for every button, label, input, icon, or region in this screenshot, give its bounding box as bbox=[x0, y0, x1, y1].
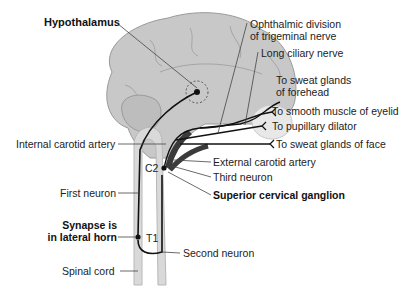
label-ophthalmic-1: Ophthalmic division bbox=[250, 18, 341, 30]
label-second-neuron: Second neuron bbox=[183, 247, 254, 259]
label-hypothalamus: Hypothalamus bbox=[44, 16, 120, 28]
label-synapse-2: in lateral horn bbox=[25, 231, 117, 243]
label-first-neuron: First neuron bbox=[60, 187, 116, 199]
label-sweat-forehead-1: To sweat glands bbox=[276, 74, 351, 86]
label-sweat-face: To sweat glands of face bbox=[276, 138, 386, 150]
label-ophthalmic-2: of trigeminal nerve bbox=[250, 30, 336, 42]
label-internal-carotid: Internal carotid artery bbox=[16, 138, 115, 150]
synapse-lateral-horn bbox=[135, 234, 140, 239]
sympathetic-pathway-diagram: Hypothalamus Ophthalmic division of trig… bbox=[0, 0, 416, 304]
label-t1: T1 bbox=[146, 232, 158, 244]
face-terminal-icon bbox=[270, 140, 274, 148]
label-sweat-forehead-2: of forehead bbox=[276, 86, 329, 98]
label-superior-cervical-ganglion: Superior cervical ganglion bbox=[213, 189, 345, 201]
label-external-carotid: External carotid artery bbox=[213, 156, 316, 168]
label-third-neuron: Third neuron bbox=[213, 171, 273, 183]
label-c2: C2 bbox=[145, 162, 158, 174]
label-long-ciliary: Long ciliary nerve bbox=[261, 47, 343, 59]
label-spinal-cord: Spinal cord bbox=[62, 265, 115, 277]
label-pupillary: To pupillary dilator bbox=[272, 120, 357, 132]
label-smooth-muscle: To smooth muscle of eyelid bbox=[272, 105, 399, 117]
label-synapse-1: Synapse is bbox=[45, 219, 117, 231]
